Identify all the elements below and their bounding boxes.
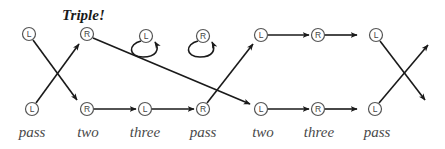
self-loop-l [131, 41, 157, 57]
node-top-2: L [140, 30, 153, 43]
svg-text:L: L [30, 104, 35, 114]
step-label: two [252, 124, 274, 140]
node-bottom-1: R [81, 103, 94, 116]
step-labels: pass two three pass two three pass [18, 124, 391, 140]
svg-text:L: L [373, 104, 378, 114]
node-bottom-5: R [312, 103, 325, 116]
step-label: two [77, 124, 99, 140]
step-label: pass [189, 124, 217, 140]
step-label: three [130, 124, 161, 140]
state-transition-diagram: Triple! L R L R L R L L R L R L R L [0, 0, 445, 149]
svg-text:R: R [200, 31, 206, 41]
svg-text:L: L [374, 30, 379, 40]
edge-b3-t4 [207, 44, 253, 103]
svg-text:R: R [84, 29, 90, 39]
node-top-6: L [370, 29, 383, 42]
node-top-0: L [23, 28, 36, 41]
svg-text:R: R [315, 30, 321, 40]
edges [33, 35, 428, 109]
node-top-1: R [81, 28, 94, 41]
svg-text:R: R [200, 104, 206, 114]
node-bottom-4: L [255, 103, 268, 116]
edge-cross-down-right [380, 41, 425, 100]
svg-text:L: L [27, 29, 32, 39]
svg-text:R: R [84, 104, 90, 114]
node-bottom-0: L [26, 103, 39, 116]
step-label: pass [18, 124, 46, 140]
svg-text:L: L [143, 104, 148, 114]
node-bottom-6: L [369, 103, 382, 116]
diagram-title: Triple! [62, 7, 105, 23]
node-top-3: R [197, 30, 210, 43]
step-label: pass [363, 124, 391, 140]
node-bottom-3: R [197, 103, 210, 116]
node-bottom-2: L [139, 103, 152, 116]
svg-text:L: L [259, 30, 264, 40]
svg-text:L: L [259, 104, 264, 114]
svg-text:R: R [315, 104, 321, 114]
edge-long-diagonal [93, 38, 250, 104]
step-label: three [304, 124, 335, 140]
svg-text:L: L [144, 31, 149, 41]
self-loop-r [188, 41, 213, 57]
node-top-5: R [312, 29, 325, 42]
edge-cross-down-left [33, 40, 77, 100]
node-top-4: L [255, 29, 268, 42]
